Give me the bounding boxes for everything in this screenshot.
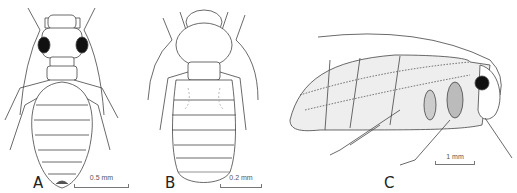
scale-text-a: 0.5 mm (90, 174, 113, 181)
scale-bar-b: 0.2 mm (220, 174, 262, 188)
panel-label-a: A (33, 174, 43, 192)
insect-a (5, 8, 118, 188)
scale-line-c (435, 161, 475, 165)
panel-label-c: C (384, 174, 394, 192)
insect-b (148, 10, 258, 183)
scale-bar-c: 1 mm (435, 153, 475, 165)
scale-line-a (74, 184, 129, 188)
scale-line-b (220, 184, 262, 188)
scale-text-c: 1 mm (446, 153, 464, 160)
scale-text-b: 0.2 mm (229, 174, 252, 181)
insect-c (290, 34, 512, 165)
scale-bar-a: 0.5 mm (74, 174, 129, 188)
panel-label-b: B (165, 174, 175, 192)
